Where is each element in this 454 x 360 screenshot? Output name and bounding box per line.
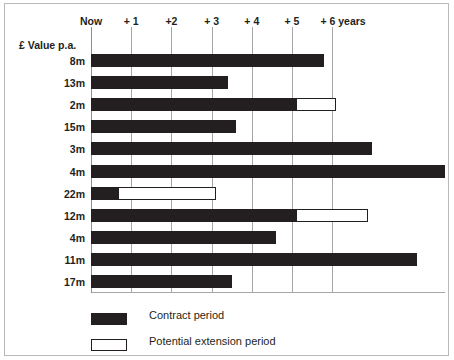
bar-contract-period (91, 54, 324, 67)
category-label-7: 12m (15, 210, 85, 222)
category-label-6: 22m (15, 188, 85, 200)
legend-swatch-contract-icon (91, 313, 127, 325)
figure-frame: £ Value p.a. 8m13m2m15m3m4m22m12m4m11m17… (4, 3, 449, 356)
x-tick-label-1: + 1 (124, 15, 139, 27)
category-label-9: 11m (15, 254, 85, 266)
bar-contract-period (91, 275, 232, 288)
bar-row (91, 231, 445, 244)
legend-item-extension: Potential extension period (91, 333, 391, 359)
category-label-3: 15m (15, 121, 85, 133)
bar-contract-period (91, 253, 417, 266)
plot-area (91, 49, 445, 293)
bar-contract-period (91, 209, 296, 222)
x-tick-label-0: Now (80, 15, 102, 27)
bar-row (91, 98, 445, 111)
legend-item-contract: Contract period (91, 307, 391, 333)
x-tick-label-5: + 5 (285, 15, 300, 27)
bar-extension-period (296, 98, 336, 111)
bar-row (91, 187, 445, 200)
bar-extension-period (296, 209, 368, 222)
bar-contract-period (91, 165, 445, 178)
bar-row (91, 54, 445, 67)
category-label-1: 13m (15, 77, 85, 89)
chart-screenshot: £ Value p.a. 8m13m2m15m3m4m22m12m4m11m17… (0, 0, 454, 360)
bar-contract-period (91, 120, 236, 133)
bar-row (91, 165, 445, 178)
legend-label-contract: Contract period (149, 309, 224, 321)
bar-row (91, 76, 445, 89)
category-label-4: 3m (15, 143, 85, 155)
bar-extension-period (118, 187, 216, 200)
bar-contract-period (91, 76, 228, 89)
bar-row (91, 275, 445, 288)
bar-contract-period (91, 142, 372, 155)
bar-contract-period (91, 187, 118, 200)
category-label-5: 4m (15, 166, 85, 178)
category-label-10: 17m (15, 276, 85, 288)
bar-row (91, 253, 445, 266)
x-tick-label-2: +2 (165, 15, 177, 27)
bar-contract-period (91, 98, 296, 111)
bar-contract-period (91, 231, 276, 244)
category-label-2: 2m (15, 99, 85, 111)
legend-label-extension: Potential extension period (149, 335, 276, 347)
x-tick-label-4: + 4 (244, 15, 259, 27)
bar-row (91, 209, 445, 222)
x-axis-baseline (91, 292, 445, 293)
category-label-column: 8m13m2m15m3m4m22m12m4m11m17m (13, 49, 85, 293)
bar-row (91, 120, 445, 133)
chart-legend: Contract period Potential extension peri… (91, 307, 391, 359)
category-label-0: 8m (15, 55, 85, 67)
legend-swatch-extension-icon (91, 339, 127, 351)
category-label-8: 4m (15, 232, 85, 244)
bar-row (91, 142, 445, 155)
x-tick-label-6: + 6 years (320, 15, 365, 27)
x-tick-label-3: + 3 (204, 15, 219, 27)
